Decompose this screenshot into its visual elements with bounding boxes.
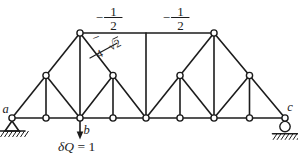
joint-n7 <box>211 115 217 121</box>
force-label-top-chord-left: − 1 2 <box>96 4 122 33</box>
pin-triangle <box>5 121 19 131</box>
member-m4-n7 <box>214 76 250 119</box>
joint-n8 <box>246 115 252 121</box>
ground-hatch <box>21 131 25 137</box>
joint-p2 <box>211 30 217 36</box>
roller-circle <box>280 121 290 131</box>
joints-layer <box>9 30 288 121</box>
joint-n5 <box>143 115 149 121</box>
truss-figure-canvas: − 1 2 − 1 2 − √2 4 b <box>0 0 298 154</box>
minus-sign: − <box>163 10 170 25</box>
truss-figure: − 1 2 − 1 2 − √2 4 b <box>0 0 298 154</box>
ground-hatch <box>5 131 9 137</box>
fraction-denominator: 2 <box>177 18 184 33</box>
unit-load: b δQ = 1 <box>58 122 95 154</box>
fraction-numerator: 1 <box>110 4 117 19</box>
joint-m3 <box>177 72 183 78</box>
label-a: a <box>2 102 8 116</box>
label-c: c <box>287 100 293 114</box>
load-value-label: δQ = 1 <box>58 139 95 154</box>
ground-hatch <box>289 134 293 140</box>
load-symbol: δQ <box>58 139 74 154</box>
ground-hatch <box>25 131 29 137</box>
ground-hatch <box>281 134 285 140</box>
joint-a <box>9 115 15 121</box>
members-layer <box>12 33 285 118</box>
supports-layer <box>0 121 298 140</box>
joint-n6 <box>177 115 183 121</box>
joint-m1 <box>43 72 49 78</box>
ground-hatch <box>293 134 297 140</box>
roller-support-c <box>273 121 299 139</box>
fraction-denominator: 4 <box>94 47 105 60</box>
ground-hatch <box>17 131 21 137</box>
load-equation: = 1 <box>74 139 95 154</box>
ground-hatch <box>285 134 289 140</box>
joint-n4 <box>110 115 116 121</box>
ground-hatch <box>273 134 277 140</box>
force-label-top-chord-right: − 1 2 <box>163 4 189 33</box>
ground-hatch <box>13 131 17 137</box>
joint-c <box>282 115 288 121</box>
ground-hatch <box>277 134 281 140</box>
joint-p1 <box>77 30 83 36</box>
member-m3-n7 <box>180 76 214 119</box>
label-b: b <box>83 123 89 137</box>
member-m1-b <box>46 76 80 119</box>
minus-sign: − <box>90 29 102 46</box>
ground-hatch <box>297 134 298 140</box>
fraction-numerator: 1 <box>177 4 184 19</box>
minus-sign: − <box>96 10 103 25</box>
joint-m4 <box>246 72 252 78</box>
ground-hatch <box>1 131 5 137</box>
pin-support-a <box>0 121 29 137</box>
fraction-denominator: 2 <box>110 18 117 33</box>
joint-n2 <box>43 115 49 121</box>
joint-m2 <box>110 72 116 78</box>
ground-hatch <box>9 131 13 137</box>
joint-b <box>77 115 83 121</box>
member-m2-b <box>80 76 113 119</box>
